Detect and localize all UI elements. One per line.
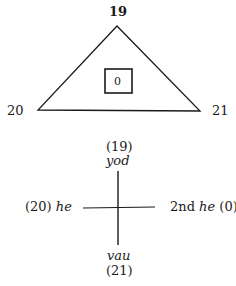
center-square-label: 0 — [114, 75, 121, 89]
cross-bottom-word: vau — [107, 249, 130, 263]
cross-bottom-number: (21) — [106, 264, 133, 278]
triangle-right-label: 21 — [212, 104, 229, 118]
cross-right-number: (0) — [219, 199, 236, 214]
cross-top-word: yod — [106, 154, 130, 168]
cross-left-label: (20) he — [25, 200, 72, 214]
cross-right-prefix: 2nd — [170, 199, 195, 214]
cross-left-number: (20) — [25, 199, 52, 214]
cross-top-number: (19) — [106, 140, 133, 154]
cross-right-word: he — [199, 199, 215, 214]
cross-right-label: 2nd he (0) — [170, 200, 236, 214]
triangle-left-label: 20 — [7, 104, 24, 118]
cross-horizontal-line — [83, 207, 155, 208]
cross-left-word: he — [56, 199, 72, 214]
triangle-top-label: 19 — [109, 5, 127, 19]
